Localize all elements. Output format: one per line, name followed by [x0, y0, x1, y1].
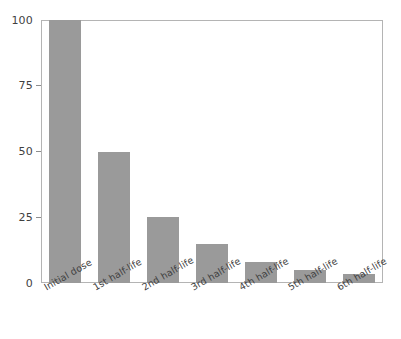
y-axis-tick-label: 25: [19, 212, 36, 223]
y-axis-tick-label: 75: [19, 80, 36, 91]
x-axis: Initial dose1st half-life2nd half-life3r…: [41, 283, 383, 339]
y-axis-tick-label: 100: [11, 15, 36, 26]
bar-chart: 0255075100 Initial dose1st half-life2nd …: [0, 0, 401, 339]
y-axis-tick-label: 0: [26, 278, 36, 289]
y-axis-tick-label: 50: [19, 146, 36, 157]
y-axis: 0255075100: [0, 0, 41, 339]
bar: [49, 20, 81, 283]
bar-series: [41, 20, 383, 283]
